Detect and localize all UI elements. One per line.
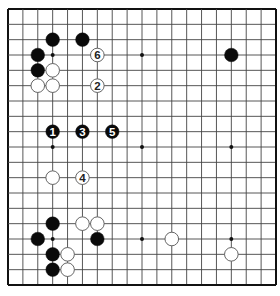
white-stone-icon [225, 248, 239, 262]
stone [165, 232, 179, 246]
move-number-label: 3 [79, 126, 85, 138]
black-stone-icon [31, 64, 45, 78]
black-stone-icon [46, 33, 60, 47]
white-stone-icon [46, 64, 60, 78]
stone [225, 248, 239, 262]
black-stone-icon [31, 48, 45, 62]
numbered-move-2: 2 [91, 79, 105, 93]
stone [61, 263, 75, 277]
move-number-label: 2 [94, 80, 100, 92]
star-point-icon [51, 53, 55, 57]
stone [31, 48, 45, 62]
move-number-label: 4 [79, 172, 86, 184]
black-stone-icon [46, 248, 60, 262]
black-stone-icon [76, 33, 90, 47]
go-board-diagram: 123456 [0, 0, 280, 296]
star-point-icon [229, 145, 233, 149]
stone [46, 263, 60, 277]
black-stone-icon [225, 48, 239, 62]
stone [225, 48, 239, 62]
move-number-label: 1 [49, 126, 56, 138]
numbered-move-6: 6 [91, 48, 105, 62]
stone [31, 232, 45, 246]
stone [31, 79, 45, 93]
black-stone-icon [46, 263, 60, 277]
stone [46, 79, 60, 93]
stone [46, 64, 60, 78]
stone [91, 217, 105, 231]
white-stone-icon [76, 217, 90, 231]
stone [76, 33, 90, 47]
white-stone-icon [165, 232, 179, 246]
white-stone-icon [46, 79, 60, 93]
star-point-icon [140, 145, 144, 149]
white-stone-icon [61, 263, 75, 277]
white-stone-icon [61, 248, 75, 262]
numbered-move-5: 5 [105, 125, 119, 139]
move-number-label: 5 [109, 126, 116, 138]
stone [46, 217, 60, 231]
go-board: 123456 [0, 0, 280, 296]
numbered-move-1: 1 [46, 125, 60, 139]
black-stone-icon [31, 232, 45, 246]
move-number-label: 6 [94, 49, 100, 61]
black-stone-icon [91, 232, 105, 246]
stone [76, 217, 90, 231]
star-point-icon [51, 145, 55, 149]
black-stone-icon [46, 217, 60, 231]
stone [46, 171, 60, 185]
stone [91, 232, 105, 246]
white-stone-icon [31, 79, 45, 93]
stones-layer [31, 33, 238, 277]
star-point-icon [229, 237, 233, 241]
stone [61, 248, 75, 262]
stone [46, 33, 60, 47]
numbered-move-3: 3 [76, 125, 90, 139]
stone [46, 248, 60, 262]
stone [31, 64, 45, 78]
star-point-icon [51, 237, 55, 241]
numbered-move-4: 4 [76, 171, 90, 185]
white-stone-icon [91, 217, 105, 231]
star-point-icon [140, 53, 144, 57]
white-stone-icon [46, 171, 60, 185]
star-point-icon [140, 237, 144, 241]
